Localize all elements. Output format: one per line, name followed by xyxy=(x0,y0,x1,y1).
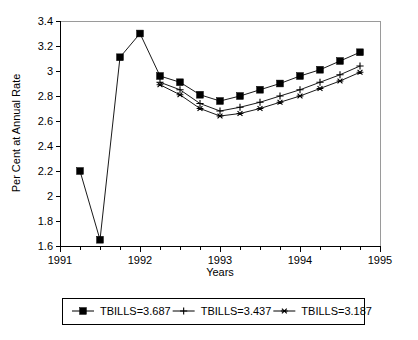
marker-asterisk-icon xyxy=(277,100,284,105)
marker-filled-square-icon xyxy=(97,236,104,243)
x-tick-label: 1995 xyxy=(368,254,392,266)
marker-filled-square-icon xyxy=(277,80,284,87)
series-line xyxy=(80,34,360,240)
marker-filled-square-icon xyxy=(117,54,124,61)
legend-item-label: TBILLS=3.687 xyxy=(100,305,171,317)
series-layer xyxy=(77,30,364,243)
y-tick-label: 2.8 xyxy=(38,90,53,102)
marker-filled-square-icon xyxy=(257,86,264,93)
marker-plus-icon xyxy=(356,62,363,69)
plot-frame xyxy=(60,21,380,246)
legend-item-label: TBILLS=3.437 xyxy=(201,305,272,317)
marker-filled-square-icon xyxy=(237,93,244,100)
marker-asterisk-icon xyxy=(237,111,244,116)
marker-filled-square-icon xyxy=(177,79,184,86)
marker-plus-icon xyxy=(196,100,203,107)
x-axis-title: Years xyxy=(206,266,234,278)
marker-filled-square-icon xyxy=(197,91,204,98)
marker-plus-icon xyxy=(316,79,323,86)
y-tick-label: 2.6 xyxy=(38,115,53,127)
marker-asterisk-icon xyxy=(337,79,344,84)
y-tick-label: 3 xyxy=(47,65,53,77)
marker-asterisk-icon xyxy=(317,86,324,91)
y-tick-label: 3.4 xyxy=(38,15,53,27)
marker-plus-icon xyxy=(256,99,263,106)
y-tick-label: 2 xyxy=(47,190,53,202)
marker-filled-square-icon xyxy=(297,73,304,80)
marker-plus-icon xyxy=(336,71,343,78)
marker-filled-square-icon xyxy=(217,98,224,105)
marker-asterisk-icon xyxy=(357,70,364,75)
y-axis: 1.61.822.22.42.62.833.23.4 xyxy=(38,15,60,252)
chart-series xyxy=(77,30,364,243)
marker-filled-square-icon xyxy=(157,73,164,80)
chart-legend: TBILLS=3.687TBILLS=3.437TBILLS=3.187 xyxy=(62,298,372,324)
marker-filled-square-icon xyxy=(337,58,344,65)
y-axis-title: Per Cent at Annual Rate xyxy=(10,74,22,193)
marker-filled-square-icon xyxy=(317,66,324,73)
chart-container: 1.61.822.22.42.62.833.23.4 1991199219931… xyxy=(0,0,418,340)
marker-filled-square-icon xyxy=(77,168,84,175)
y-tick-label: 2.4 xyxy=(38,140,53,152)
marker-plus-icon xyxy=(236,104,243,111)
x-tick-label: 1991 xyxy=(48,254,72,266)
plot-border xyxy=(60,21,380,246)
x-tick-label: 1993 xyxy=(208,254,232,266)
x-tick-label: 1992 xyxy=(128,254,152,266)
y-tick-label: 2.2 xyxy=(38,165,53,177)
marker-asterisk-icon xyxy=(297,94,304,99)
marker-plus-icon xyxy=(276,92,283,99)
chart-series xyxy=(157,70,364,119)
y-tick-label: 1.6 xyxy=(38,240,53,252)
marker-asterisk-icon xyxy=(257,106,264,111)
y-tick-label: 1.8 xyxy=(38,215,53,227)
tbills-line-chart: 1.61.822.22.42.62.833.23.4 1991199219931… xyxy=(0,0,418,340)
marker-filled-square-icon xyxy=(137,30,144,37)
x-tick-label: 1994 xyxy=(288,254,312,266)
legend-item-label: TBILLS=3.187 xyxy=(301,305,372,317)
marker-plus-icon xyxy=(216,107,223,114)
marker-filled-square-icon xyxy=(80,308,87,315)
marker-filled-square-icon xyxy=(357,49,364,56)
y-tick-label: 3.2 xyxy=(38,40,53,52)
x-axis: 19911992199319941995 xyxy=(48,246,392,266)
marker-plus-icon xyxy=(296,86,303,93)
marker-plus-icon xyxy=(176,86,183,93)
